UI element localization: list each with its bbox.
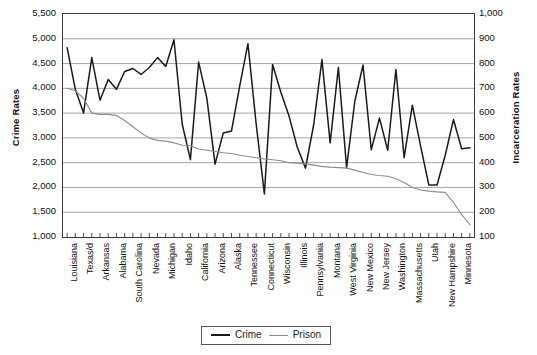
x-axis-tick-label: West Virginia bbox=[349, 243, 358, 296]
chart-legend: CrimePrison bbox=[201, 326, 331, 345]
x-axis-tick-label: South Carolina bbox=[135, 243, 144, 303]
y-axis-left-tick-label: 2,500 bbox=[32, 157, 56, 167]
y-axis-right-tick-label: 100 bbox=[479, 231, 495, 241]
x-axis-tick-label: Minnesota bbox=[464, 243, 473, 285]
y-axis-left-tick-label: 5,500 bbox=[32, 8, 56, 18]
x-axis-tick-marks bbox=[67, 233, 470, 237]
legend-label-prison: Prison bbox=[293, 330, 321, 340]
x-axis-tick-label: Texas/d bbox=[86, 243, 95, 274]
y-axis-left-tick-label: 3,000 bbox=[32, 132, 56, 142]
x-axis-tick-label: Washington bbox=[398, 243, 407, 290]
series-layer bbox=[67, 40, 470, 225]
y-axis-left-tick-label: 1,000 bbox=[32, 231, 56, 241]
x-axis-tick-label: Utah bbox=[431, 243, 440, 262]
y-axis-left-tick-label: 5,000 bbox=[32, 33, 56, 43]
x-axis-tick-label: Illinois bbox=[300, 243, 309, 268]
x-axis-tick-label: Alaska bbox=[234, 243, 243, 270]
y-axis-right-tick-label: 300 bbox=[479, 181, 495, 191]
legend-label-crime: Crime bbox=[235, 330, 262, 340]
x-axis-tick-label: Massachusetts bbox=[415, 243, 424, 303]
chart-container: Crime Rates Incarceration Rates 5,5005,0… bbox=[0, 0, 537, 355]
y-axis-left-tick-label: 4,000 bbox=[32, 82, 56, 92]
series-line-prison bbox=[67, 88, 470, 224]
legend-item-prison: Prison bbox=[269, 330, 321, 340]
x-axis-tick-label: Pennsylvania bbox=[316, 243, 325, 297]
x-axis-tick-label: Idaho bbox=[185, 243, 194, 266]
y-axis-right-tick-label: 600 bbox=[479, 107, 495, 117]
x-axis-tick-label: California bbox=[201, 243, 210, 281]
y-axis-right-tick-label: 1,000 bbox=[479, 8, 503, 18]
legend-item-crime: Crime bbox=[211, 330, 262, 340]
y-axis-left-tick-label: 2,000 bbox=[32, 181, 56, 191]
y-axis-left-tick-label: 3,500 bbox=[32, 107, 56, 117]
y-axis-right-tick-label: 900 bbox=[479, 33, 495, 43]
x-axis-tick-label: Montana bbox=[333, 243, 342, 278]
x-axis-tick-label: Wisconsin bbox=[283, 243, 292, 284]
y-axis-left-title: Crime Rates bbox=[10, 58, 21, 178]
x-axis-tick-label: Nevada bbox=[152, 243, 161, 274]
x-axis-tick-label: New Hampshire bbox=[448, 243, 457, 307]
legend-swatch-crime bbox=[211, 334, 230, 336]
plot-svg bbox=[63, 14, 474, 237]
x-axis-tick-label: Arkansas bbox=[102, 243, 111, 281]
x-axis-tick-label: New Mexico bbox=[366, 243, 375, 292]
y-axis-left-tick-label: 1,500 bbox=[32, 206, 56, 216]
y-axis-right-tick-label: 500 bbox=[479, 132, 495, 142]
x-axis-tick-label: Louisiana bbox=[70, 243, 79, 282]
plot-area bbox=[62, 13, 475, 238]
x-axis-tick-label: Alabama bbox=[119, 243, 128, 279]
y-axis-right-tick-label: 700 bbox=[479, 82, 495, 92]
x-axis-tick-label: New Jersey bbox=[382, 243, 391, 290]
x-axis-tick-label: Connecticut bbox=[267, 243, 276, 291]
x-axis-tick-label: Tennessee bbox=[250, 243, 259, 287]
y-axis-right-tick-label: 200 bbox=[479, 206, 495, 216]
x-axis-tick-label: Michigan bbox=[168, 243, 177, 279]
y-axis-left-ticks: 5,5005,0004,5004,0003,5003,0002,5002,000… bbox=[20, 0, 56, 355]
y-axis-left-tick-label: 4,500 bbox=[32, 58, 56, 68]
y-axis-right-tick-label: 800 bbox=[479, 58, 495, 68]
y-axis-right-tick-label: 400 bbox=[479, 157, 495, 167]
legend-swatch-prison bbox=[269, 335, 288, 336]
x-axis-tick-labels: LouisianaTexas/dArkansasAlabamaSouth Car… bbox=[62, 243, 475, 328]
y-axis-right-ticks: 1,000900800700600500400300200100 bbox=[479, 0, 519, 355]
series-line-crime bbox=[67, 40, 470, 194]
x-axis-tick-label: Arizona bbox=[218, 243, 227, 274]
